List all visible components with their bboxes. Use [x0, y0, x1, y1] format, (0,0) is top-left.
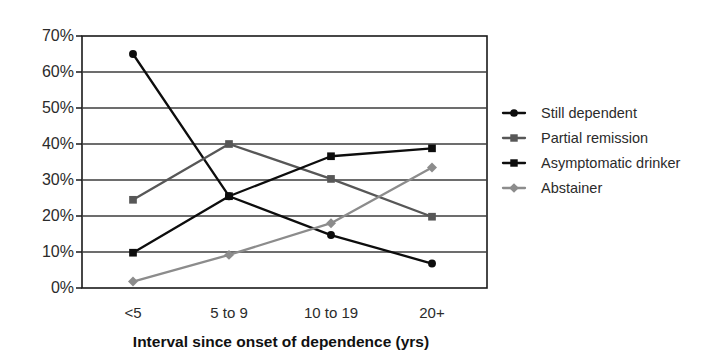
data-point-10-to-19 — [327, 152, 335, 160]
legend-item-label: Asymptomatic drinker — [541, 155, 681, 171]
y-tick-label-30: 30% — [42, 171, 74, 188]
data-point-10-to-19 — [327, 175, 335, 183]
legend-marker-icon — [510, 134, 517, 141]
y-tick-label-10: 10% — [42, 243, 74, 260]
y-tick-label-70: 70% — [42, 27, 74, 44]
x-category-label-2: 10 to 19 — [304, 304, 358, 321]
y-tick-label-40: 40% — [42, 135, 74, 152]
x-category-label-0: <5 — [124, 304, 141, 321]
legend-marker-icon — [510, 159, 517, 166]
data-point-20- — [428, 260, 436, 268]
data-point-5-to-9 — [225, 192, 233, 200]
legend-item-label: Partial remission — [541, 130, 648, 146]
data-point--5 — [129, 196, 137, 204]
legend-marker-icon — [510, 109, 518, 117]
y-tick-label-50: 50% — [42, 99, 74, 116]
data-point--5 — [129, 249, 137, 257]
y-tick-label-60: 60% — [42, 63, 74, 80]
data-point-20- — [428, 144, 436, 152]
legend-item-label: Abstainer — [541, 180, 602, 196]
chart-figure: 0% 10% 20% 30% 40% 50% 60% 70% <5 5 to 9… — [0, 0, 721, 361]
data-point-5-to-9 — [225, 140, 233, 148]
legend-item-label: Still dependent — [541, 105, 637, 121]
data-point-20- — [428, 213, 436, 221]
data-point--5 — [129, 50, 137, 58]
y-tick-label-0: 0% — [51, 279, 74, 296]
x-category-label-3: 20+ — [419, 304, 445, 321]
line-chart: 0% 10% 20% 30% 40% 50% 60% 70% <5 5 to 9… — [0, 0, 721, 361]
y-tick-label-20: 20% — [42, 207, 74, 224]
x-axis-title: Interval since onset of dependence (yrs) — [133, 333, 429, 350]
x-category-label-1: 5 to 9 — [210, 304, 248, 321]
data-point-10-to-19 — [327, 231, 335, 239]
